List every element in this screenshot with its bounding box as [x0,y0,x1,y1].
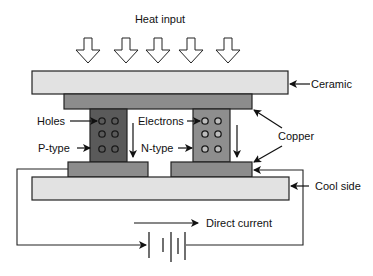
copper-label: Copper [278,130,314,142]
top-ceramic-plate [32,71,288,94]
heat-arrow-icon [114,38,138,63]
battery-icon [149,232,185,262]
heat-arrows [76,38,240,63]
top-copper-plate [64,94,252,109]
bottom-ceramic-plate [32,177,289,200]
electrons-label: Electrons [138,115,184,127]
n-type-leg [193,109,230,162]
heat-arrow-icon [216,38,240,63]
p-type-label: P-type [38,142,70,154]
ceramic-label: Ceramic [311,78,352,90]
heat-arrow-icon [146,38,170,63]
cool-side-label: Cool side [315,180,361,192]
holes-label: Holes [37,115,66,127]
copper-pointer-top-icon [254,110,282,128]
copper-pointer-bottom-icon [254,146,282,162]
peltier-diagram: Heat input Dire [0,0,373,276]
bottom-copper-left [68,162,148,177]
heat-arrow-icon [76,38,100,63]
heat-input-label: Heat input [135,13,185,25]
heat-arrow-icon [179,38,203,63]
n-type-label: N-type [141,142,173,154]
direct-current-label: Direct current [206,217,272,229]
bottom-copper-right [171,162,252,177]
p-type-leg [90,109,127,162]
